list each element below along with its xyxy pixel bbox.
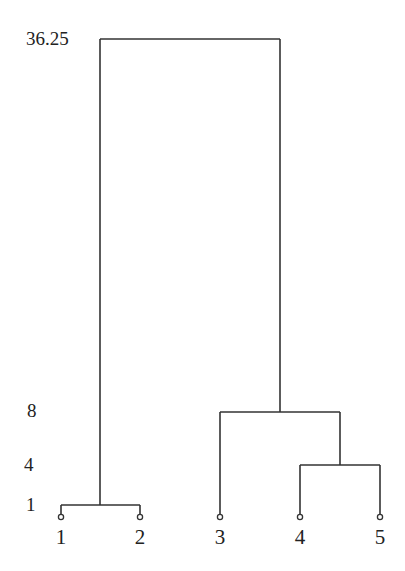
dendrogram xyxy=(0,0,405,571)
leaf-label-1: 1 xyxy=(56,527,67,548)
leaf-label-5: 5 xyxy=(375,527,386,548)
leaf-node-5 xyxy=(377,514,382,519)
leaf-label-4: 4 xyxy=(295,527,306,548)
leaf-node-4 xyxy=(297,514,302,519)
leaf-label-2: 2 xyxy=(135,527,146,548)
leaf-label-3: 3 xyxy=(215,527,226,548)
leaf-node-3 xyxy=(217,514,222,519)
leaf-node-1 xyxy=(58,514,63,519)
leaf-node-2 xyxy=(137,514,142,519)
